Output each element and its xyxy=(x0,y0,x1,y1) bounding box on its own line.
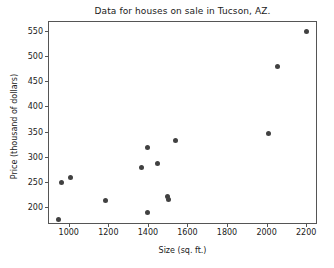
x-tick-mark xyxy=(187,223,188,227)
data-point xyxy=(103,198,108,203)
data-point xyxy=(59,180,64,185)
x-tick-label: 1800 xyxy=(217,228,237,237)
x-tick-label: 1400 xyxy=(138,228,158,237)
y-tick-label: 300 xyxy=(28,152,43,161)
x-tick-mark xyxy=(306,223,307,227)
y-tick-mark xyxy=(45,132,49,133)
y-tick-mark xyxy=(45,157,49,158)
x-tick-mark xyxy=(267,223,268,227)
y-tick-mark xyxy=(45,31,49,32)
y-tick-mark xyxy=(45,106,49,107)
y-tick-label: 350 xyxy=(28,127,43,136)
y-tick-label: 400 xyxy=(28,102,43,111)
x-tick-mark xyxy=(148,223,149,227)
data-point xyxy=(68,175,73,180)
x-tick-label: 1200 xyxy=(98,228,118,237)
data-point xyxy=(304,29,309,34)
y-tick-label: 500 xyxy=(28,51,43,60)
y-axis-label: Price (thousand of dollars) xyxy=(10,67,19,187)
x-tick-mark xyxy=(108,223,109,227)
data-point xyxy=(173,138,178,143)
y-tick-mark xyxy=(45,81,49,82)
x-axis-label: Size (sq. ft.) xyxy=(48,246,317,255)
scatter-plot-figure: Data for houses on sale in Tucson, AZ. 2… xyxy=(0,0,334,268)
data-point xyxy=(145,145,150,150)
data-point xyxy=(155,161,160,166)
y-tick-label: 250 xyxy=(28,178,43,187)
data-point xyxy=(166,197,171,202)
y-tick-mark xyxy=(45,56,49,57)
data-point xyxy=(266,131,271,136)
x-tick-label: 2200 xyxy=(296,228,316,237)
x-tick-label: 1600 xyxy=(177,228,197,237)
plot-area: 200250300350400450500550 100012001400160… xyxy=(48,21,317,224)
y-tick-label: 200 xyxy=(28,203,43,212)
x-tick-label: 2000 xyxy=(256,228,276,237)
y-tick-mark xyxy=(45,182,49,183)
data-point xyxy=(56,217,61,222)
x-tick-mark xyxy=(227,223,228,227)
x-tick-label: 1000 xyxy=(59,228,79,237)
y-tick-label: 550 xyxy=(28,26,43,35)
y-tick-mark xyxy=(45,207,49,208)
y-tick-label: 450 xyxy=(28,77,43,86)
data-point xyxy=(275,64,280,69)
data-point xyxy=(145,210,150,215)
chart-title: Data for houses on sale in Tucson, AZ. xyxy=(48,6,317,16)
data-point xyxy=(139,165,144,170)
x-tick-mark xyxy=(69,223,70,227)
